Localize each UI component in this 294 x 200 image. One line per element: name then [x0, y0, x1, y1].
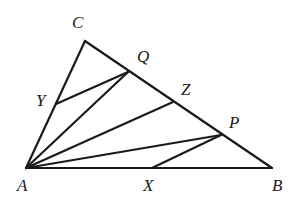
cevian-AZ: [26, 102, 173, 168]
segment-YQ: [56, 72, 128, 104]
geometry-figure: C Q Y Z P A X B: [0, 0, 294, 200]
side-CB: [85, 41, 272, 168]
vertex-label-A: A: [17, 177, 27, 194]
vertex-label-C: C: [72, 14, 83, 31]
vertex-label-Y: Y: [36, 92, 45, 109]
vertex-label-Q: Q: [137, 48, 149, 65]
vertex-label-Z: Z: [181, 81, 190, 98]
vertex-label-X: X: [143, 177, 153, 194]
vertex-label-P: P: [229, 114, 239, 131]
vertex-label-B: B: [272, 177, 282, 194]
